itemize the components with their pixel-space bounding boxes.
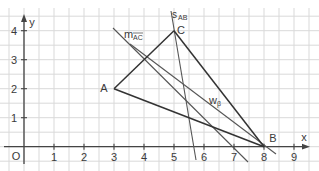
geometry-diagram: 1 2 3 4 5 6 7 8 9 1 2 3 4 O x y: [0, 0, 319, 171]
x-tick-label: 6: [201, 151, 207, 163]
label-w-beta-sub: β: [217, 100, 221, 108]
x-tick-label: 2: [81, 151, 87, 163]
y-tick-label: 4: [11, 25, 17, 37]
line-m-ac: [113, 28, 248, 162]
x-tick-label: 9: [291, 151, 297, 163]
x-tick-label: 4: [141, 151, 147, 163]
line-w-beta: [130, 44, 276, 154]
label-w-beta-main: w: [208, 94, 217, 106]
origin-label: O: [12, 150, 21, 162]
label-s-ab-main: s: [172, 9, 177, 20]
y-tick-label: 2: [11, 83, 17, 95]
label-s-ab-sub: AB: [178, 14, 188, 21]
x-tick-label: 5: [171, 151, 177, 163]
label-s-ab: s AB: [172, 9, 188, 21]
diagram-canvas: 1 2 3 4 5 6 7 8 9 1 2 3 4 O x y: [0, 0, 319, 171]
x-tick-label: 8: [261, 151, 267, 163]
x-tick-label: 3: [111, 151, 117, 163]
x-tick-label: 7: [231, 151, 237, 163]
point-label-c: C: [177, 24, 185, 36]
label-m-ac-main: m: [124, 28, 133, 40]
y-axis-arrow-icon: [21, 14, 27, 22]
label-m-ac: m AC: [124, 28, 143, 41]
point-label-b: B: [269, 132, 276, 144]
y-tick-label: 1: [11, 112, 17, 124]
y-axis-label: y: [29, 16, 35, 28]
point-label-a: A: [100, 82, 108, 94]
x-axis-label: x: [301, 131, 307, 143]
y-tick-label: 3: [11, 54, 17, 66]
label-m-ac-sub: AC: [133, 34, 143, 41]
x-tick-label: 1: [51, 151, 57, 163]
